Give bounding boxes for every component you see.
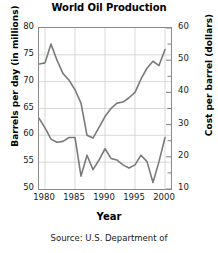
x-axis-tick-label: 1980 <box>31 192 57 202</box>
y-axis-right-tick-label: 20 <box>178 150 196 160</box>
page-title: World Oil Production <box>0 2 218 13</box>
y-axis-left-tick-label: 65 <box>16 102 34 112</box>
x-axis-tick-label: 2000 <box>151 192 177 202</box>
source-note: Source: U.S. Department of <box>0 233 218 243</box>
y-axis-left-tick-label: 60 <box>16 128 34 138</box>
x-axis-ticks: 19801985199019952000 <box>38 192 172 206</box>
y-axis-left-tick-label: 70 <box>16 75 34 85</box>
y-axis-right-tick-label: 10 <box>178 182 196 192</box>
y-axis-left-tick-label: 80 <box>16 21 34 31</box>
y-axis-right-tick-label: 60 <box>178 21 196 31</box>
x-axis-tick-label: 1985 <box>61 192 87 202</box>
x-axis-title: Year <box>0 211 218 222</box>
y-axis-right-title: Cost per barrel (dollars) <box>204 0 214 151</box>
y-axis-left-tick-label: 50 <box>16 182 34 192</box>
x-axis-tick-label: 1990 <box>91 192 117 202</box>
y-axis-right-ticks: 102030405060 <box>178 27 200 190</box>
y-axis-right-tick-label: 50 <box>178 53 196 63</box>
y-axis-left-tick-label: 75 <box>16 48 34 58</box>
plot-area <box>38 27 172 190</box>
chart-plot-svg <box>39 28 171 189</box>
x-axis-tick-label: 1995 <box>121 192 147 202</box>
y-axis-right-tick-label: 30 <box>178 118 196 128</box>
y-axis-left-ticks: 50556065707580 <box>14 27 34 190</box>
y-axis-right-tick-label: 40 <box>178 85 196 95</box>
chart-figure: World Oil Production Barrels per day (in… <box>0 0 218 253</box>
y-axis-left-tick-label: 55 <box>16 155 34 165</box>
